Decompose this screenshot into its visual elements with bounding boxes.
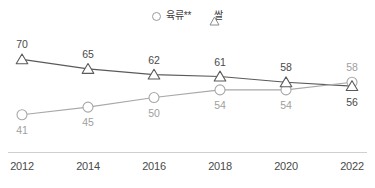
data-point-marker-meat: [215, 85, 225, 95]
x-axis-tick-label: 2018: [208, 160, 232, 172]
data-label-rice: 65: [82, 49, 93, 60]
data-label-meat: 50: [148, 108, 159, 119]
data-label-meat: 58: [346, 62, 357, 73]
x-axis-tick-label: 2012: [10, 160, 34, 172]
series-markers-rice: [16, 54, 358, 91]
data-label-rice: 62: [148, 55, 159, 66]
data-label-meat: 45: [82, 117, 93, 128]
x-axis-tick-label: 2016: [142, 160, 166, 172]
data-point-marker-meat: [149, 93, 159, 103]
data-point-marker-meat: [83, 102, 93, 112]
x-axis-tick-label: 2014: [76, 160, 100, 172]
x-axis-tick-label: 2020: [274, 160, 298, 172]
data-label-meat: 54: [214, 100, 225, 111]
line-chart: 육류** 쌀 706562615856414550545458 20: [0, 0, 375, 188]
series-line-rice: [22, 59, 352, 86]
data-point-marker-rice: [16, 54, 28, 64]
x-axis-labels: 201220142016201820202022: [0, 160, 375, 180]
data-point-marker-meat: [17, 110, 27, 120]
series-line-meat: [22, 82, 352, 114]
data-label-rice: 70: [16, 39, 27, 50]
data-label-meat: 41: [16, 125, 27, 136]
data-label-rice: 56: [346, 97, 357, 108]
data-label-meat: 54: [280, 100, 291, 111]
x-axis-tick-label: 2022: [340, 160, 364, 172]
data-label-rice: 58: [280, 62, 291, 73]
data-label-rice: 61: [214, 57, 225, 68]
